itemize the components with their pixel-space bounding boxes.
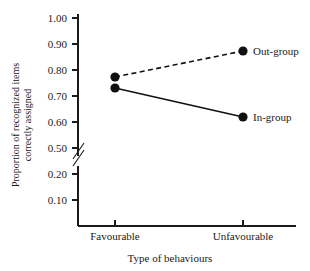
series-label-in-group: In-group xyxy=(253,111,292,123)
data-point-out-group-favourable xyxy=(110,72,119,81)
y-tick-label-7: 0.20 xyxy=(48,168,68,180)
chart-svg: 1.00 0.90 0.80 0.70 0.60 0.50 0.20 0.10 … xyxy=(0,0,310,271)
y-tick-label-3: 0.80 xyxy=(48,64,68,76)
y-axis-title-line2: correctly assigned xyxy=(22,89,33,161)
x-tick-label-unfavourable: Unfavourable xyxy=(213,230,274,242)
y-tick-label-1: 1.00 xyxy=(48,12,68,24)
y-tick-label-4: 0.70 xyxy=(48,90,68,102)
y-tick-label-6: 0.50 xyxy=(48,142,68,154)
series-line-in-group xyxy=(115,88,243,117)
series-line-out-group xyxy=(115,51,243,77)
data-point-in-group-favourable xyxy=(110,83,119,92)
x-tick-label-favourable: Favourable xyxy=(90,230,140,242)
line-chart-figure: 1.00 0.90 0.80 0.70 0.60 0.50 0.20 0.10 … xyxy=(0,0,310,271)
y-tick-label-2: 0.90 xyxy=(48,38,68,50)
series-label-out-group: Out-group xyxy=(253,45,299,57)
y-tick-label-8: 0.10 xyxy=(48,194,68,206)
y-tick-label-5: 0.60 xyxy=(48,116,68,128)
data-point-out-group-unfavourable xyxy=(238,46,247,55)
y-axis-title-line1: Proportion of recognized items xyxy=(10,63,21,187)
x-axis-title: Type of behaviours xyxy=(128,252,213,264)
data-point-in-group-unfavourable xyxy=(238,112,247,121)
